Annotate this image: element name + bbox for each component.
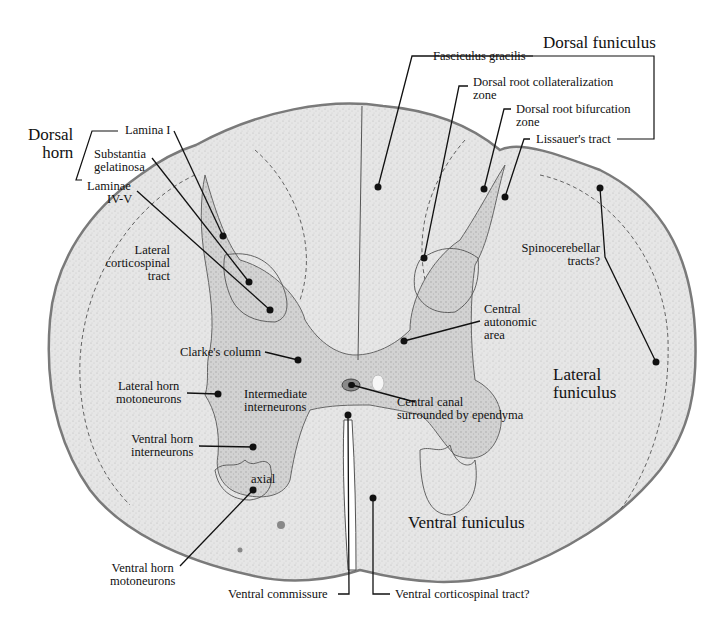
label-ventral-horn-motoneurons: Ventral horn motoneurons [110,562,175,588]
label-line: interneurons [244,401,307,414]
label-lateral-horn-motoneurons: Lateral horn motoneurons [116,380,181,406]
dot-fasciculus-gracilis [375,184,382,191]
label-line: surrounded by ependyma [397,409,523,422]
label-line: Dorsal [28,126,73,144]
dot-lissauers-tract [502,194,509,201]
label-ventral-corticospinal-tract: Ventral corticospinal tract? [395,588,530,601]
label-clarkes-column: Clarke's column [180,346,261,359]
dot-laminae-iv-v [267,307,274,314]
label-dorsal-horn: Dorsal horn [28,126,73,162]
label-line: motoneurons [116,393,181,406]
dot-lamina-i [220,233,227,240]
spinal-cord-outline [49,104,696,582]
label-line: horn [28,144,73,162]
label-line: Lateral [553,366,616,384]
dot-bifurcation-zone [481,186,488,193]
label-substantia-gelatinosa: Substantia gelatinosa [94,148,146,174]
dot-central-autonomic [401,338,408,345]
dot-ventral-corticospinal [370,495,377,502]
label-spinocerebellar-tracts: Spinocerebellar tracts? [510,242,600,268]
label-line: zone [473,89,613,102]
label-line: IV-V [87,193,132,206]
label-fasciculus-gracilis: Fasciculus gracilis [433,50,526,63]
label-lamina-i: Lamina I [125,124,170,137]
label-lissauers-tract: Lissauer's tract [536,133,611,146]
label-line: funiculus [553,384,616,402]
label-central-autonomic-area: Central autonomic area [484,303,537,342]
label-dorsal-root-bifurcation-zone: Dorsal root bifurcation zone [516,103,631,129]
label-axial: axial [251,473,275,486]
dot-spinocerebellar-bottom [653,359,660,366]
dot-central-canal [349,382,355,388]
label-line: interneurons [131,446,193,459]
dot-spinocerebellar-top [597,185,604,192]
dot-collateralization-zone [421,255,428,262]
label-ventral-horn-interneurons: Ventral horn interneurons [131,433,193,459]
label-ventral-funiculus: Ventral funiculus [408,514,525,532]
label-line: area [484,329,537,342]
label-central-canal: Central canal surrounded by ependyma [397,396,523,422]
dot-ventral-commissure [345,412,352,419]
dot-lateral-horn [215,391,222,398]
label-line: zone [516,116,631,129]
dot-ventral-horn-motoneurons [250,487,257,494]
label-line: motoneurons [110,575,175,588]
label-laminae-iv-v: Laminae IV-V [87,180,132,206]
label-dorsal-funiculus: Dorsal funiculus [543,34,656,52]
label-line: tract [98,270,170,283]
dot-ventral-horn-interneurons [250,444,257,451]
label-ventral-commissure: Ventral commissure [228,588,328,601]
label-lateral-corticospinal-tract: Lateral corticospinal tract [98,244,170,283]
label-intermediate-interneurons: Intermediate interneurons [244,388,307,414]
label-line: tracts? [510,255,600,268]
label-line: gelatinosa [94,161,146,174]
dot-clarkes-column [295,357,302,364]
dot-substantia-gelatinosa [246,279,253,286]
label-lateral-funiculus: Lateral funiculus [553,366,616,402]
label-dorsal-root-collateralization-zone: Dorsal root collateralization zone [473,76,613,102]
